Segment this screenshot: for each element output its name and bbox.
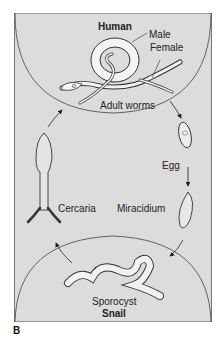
stage-label-male: Male (149, 30, 171, 40)
stage-label-sporocyst: Sporocyst (92, 297, 136, 307)
cycle-arrows (48, 101, 188, 263)
host-label-human: Human (98, 22, 132, 32)
panel-letter: B (13, 325, 20, 336)
stage-label-cercaria: Cercaria (58, 204, 96, 214)
stage-label-adult-worms: Adult worms (100, 101, 155, 111)
egg-illustration (176, 121, 193, 149)
stage-label-miracidium: Miracidium (117, 204, 165, 214)
stage-label-female: Female (150, 43, 183, 53)
life-cycle-diagram (0, 0, 223, 341)
cercaria-illustration (28, 133, 60, 222)
host-label-snail: Snail (102, 309, 126, 319)
miracidium-illustration (179, 192, 193, 228)
stage-label-egg: Egg (162, 161, 180, 171)
sporocyst-illustration (68, 259, 160, 296)
